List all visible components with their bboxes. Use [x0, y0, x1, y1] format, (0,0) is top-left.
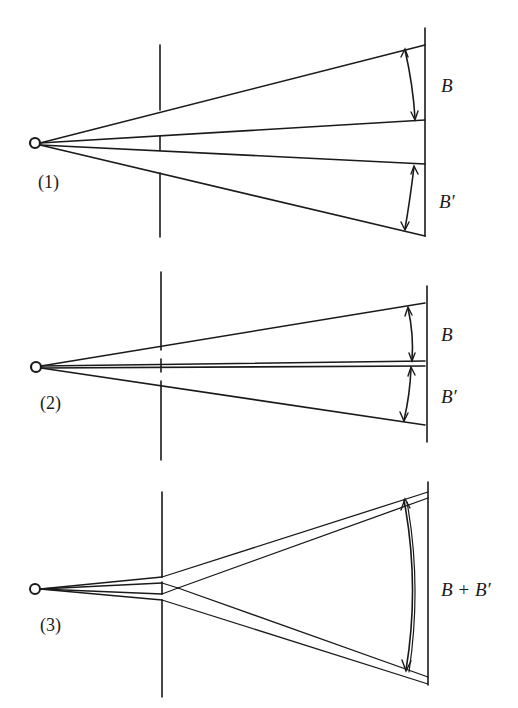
screen-label-combined-3: B + B′ — [441, 579, 492, 600]
screen-label-Bprime-2: B′ — [441, 386, 458, 407]
source-1 — [30, 138, 40, 148]
panel-label-1: (1) — [38, 172, 59, 193]
panel-2 — [31, 272, 427, 460]
arrow-B-1 — [405, 50, 415, 118]
panel-3 — [30, 482, 428, 697]
arrow-B-2 — [408, 308, 413, 360]
panel-label-3: (3) — [40, 615, 61, 636]
panel-label-2: (2) — [40, 393, 61, 414]
double-slit-diagram: (1) B B′ (2) B B′ (3) B + B′ — [0, 0, 518, 708]
source-3 — [30, 584, 40, 594]
arrow-Bprime-1 — [405, 167, 414, 229]
screen-label-B-1: B — [441, 75, 453, 96]
panel-1 — [30, 28, 425, 237]
screen-label-B-2: B — [441, 324, 453, 345]
source-2 — [31, 362, 41, 372]
screen-label-Bprime-1: B′ — [439, 191, 456, 212]
